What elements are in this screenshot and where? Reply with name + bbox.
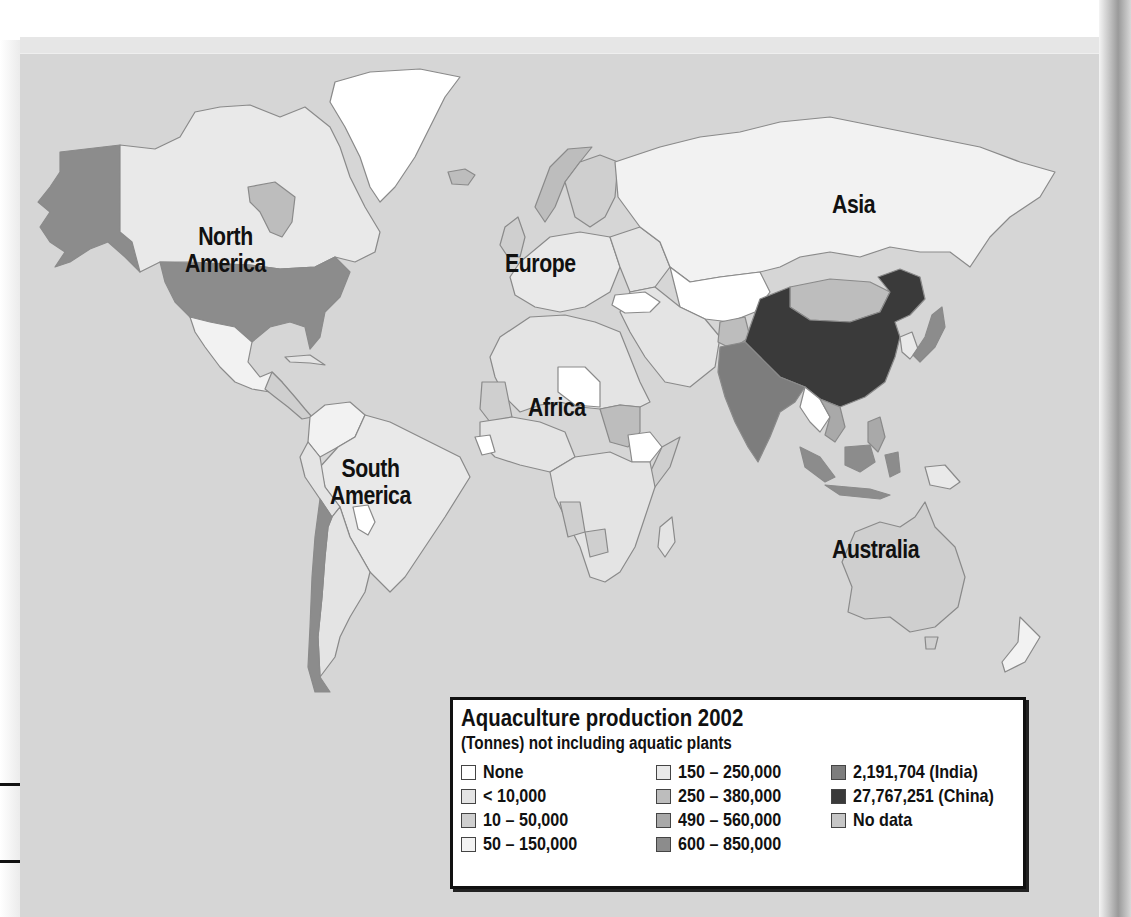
swatch-600-850000 [656,837,671,852]
book-page: North America South America Europe Afric… [0,0,1131,917]
legend-item-150-250000: 150 – 250,000 [656,760,800,784]
swatch-lt-10000 [461,789,476,804]
legend-item-india: 2,191,704 (India) [831,760,1019,784]
region-png [925,465,960,489]
label-north-america: North America [185,223,266,277]
label-south-america: South America [330,455,411,509]
legend-item-none: None [461,760,594,784]
region-west-africa [480,417,575,472]
label-africa: Africa [528,394,586,421]
region-indonesia-sulawesi [885,452,900,477]
swatch-india [831,765,846,780]
region-tasmania [925,637,938,649]
legend-item-600-850000: 600 – 850,000 [656,832,800,856]
legend-label: None [483,761,523,783]
region-cuba [285,355,325,365]
legend-label: No data [853,809,912,831]
legend-label: 600 – 850,000 [678,833,781,855]
legend-column-1: None < 10,000 10 – 50,000 50 – 150,000 [461,760,594,856]
label-europe-line1: Europe [505,250,576,277]
label-australia: Australia [832,536,919,563]
legend-item-490-560000: 490 – 560,000 [656,808,800,832]
legend-label: 250 – 380,000 [678,785,781,807]
swatch-250-380000 [656,789,671,804]
legend-label: 50 – 150,000 [483,833,577,855]
label-africa-line1: Africa [528,394,586,421]
region-indonesia-sumatra [800,447,835,482]
legend-label: 10 – 50,000 [483,809,568,831]
legend-label: 150 – 250,000 [678,761,781,783]
swatch-none [461,765,476,780]
map-legend: Aquaculture production 2002 (Tonnes) not… [450,697,1026,889]
swatch-10-50000 [461,813,476,828]
legend-label: 490 – 560,000 [678,809,781,831]
legend-item-250-380000: 250 – 380,000 [656,784,800,808]
label-north-america-line1: North [185,223,266,250]
swatch-china [831,789,846,804]
label-south-america-line1: South [330,455,411,482]
region-central-america [265,372,312,419]
legend-item-50-150000: 50 – 150,000 [461,832,594,856]
swatch-50-150000 [461,837,476,852]
legend-label: 27,767,251 (China) [853,785,994,807]
legend-column-2: 150 – 250,000 250 – 380,000 490 – 560,00… [656,760,800,856]
label-asia: Asia [832,191,875,218]
region-indonesia-java [825,485,890,499]
page-right-edge [1099,0,1131,917]
label-europe: Europe [505,250,576,277]
legend-column-3: 2,191,704 (India) 27,767,251 (China) No … [831,760,1019,832]
region-australia [842,502,965,632]
region-indonesia-borneo [845,445,875,472]
swatch-490-560000 [656,813,671,828]
region-madagascar [658,517,675,557]
swatch-no-data [831,813,846,828]
legend-grid: None < 10,000 10 – 50,000 50 – 150,000 [461,760,1015,870]
label-south-america-line2: America [330,482,411,509]
legend-item-china: 27,767,251 (China) [831,784,1019,808]
region-japan [913,307,945,362]
label-asia-line1: Asia [832,191,875,218]
legend-item-no-data: No data [831,808,1019,832]
legend-subtitle: (Tonnes) not including aquatic plants [461,732,932,754]
region-angola [560,502,585,537]
legend-label: < 10,000 [483,785,546,807]
swatch-150-250000 [656,765,671,780]
region-iceland [448,169,475,185]
legend-label: 2,191,704 (India) [853,761,978,783]
legend-item-lt-10000: < 10,000 [461,784,594,808]
label-australia-line1: Australia [832,536,919,563]
label-north-america-line2: America [185,250,266,277]
legend-item-10-50000: 10 – 50,000 [461,808,594,832]
legend-title: Aquaculture production 2002 [461,704,932,732]
region-new-zealand [1002,617,1040,672]
